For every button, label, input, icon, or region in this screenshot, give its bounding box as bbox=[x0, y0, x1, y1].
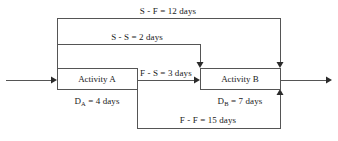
relationship-line-ss bbox=[57, 44, 200, 68]
activity-b-label: Activity B bbox=[221, 74, 259, 84]
relationship-arrowhead-ff bbox=[277, 89, 284, 95]
activity-a-label: Activity A bbox=[78, 74, 116, 84]
entry-arrowhead bbox=[51, 77, 57, 84]
relationship-arrowhead-sf bbox=[277, 62, 284, 68]
relationship-label-fs: F - S = 3 days bbox=[140, 69, 192, 78]
exit-arrowhead bbox=[326, 77, 332, 84]
relationship-label-ss: S - S = 2 days bbox=[111, 33, 163, 42]
relationship-label-sf: S - F = 12 days bbox=[140, 7, 196, 16]
activity-a-duration-value: = 4 days bbox=[86, 96, 120, 106]
relationship-arrowhead-ss bbox=[197, 62, 204, 68]
activity-a-duration: DA = 4 days bbox=[74, 97, 119, 107]
relationship-label-ff: F - F = 15 days bbox=[180, 116, 236, 125]
relationship-arrowhead-fs bbox=[194, 77, 200, 84]
activity-b-duration-value: = 7 days bbox=[229, 96, 263, 106]
diagram-canvas: S - F = 12 days S - S = 2 days F - S = 3… bbox=[0, 0, 338, 141]
activity-b-duration-prefix: D bbox=[218, 96, 225, 106]
relationship-line-sf bbox=[57, 18, 280, 68]
activity-b-duration: DB = 7 days bbox=[218, 97, 263, 107]
